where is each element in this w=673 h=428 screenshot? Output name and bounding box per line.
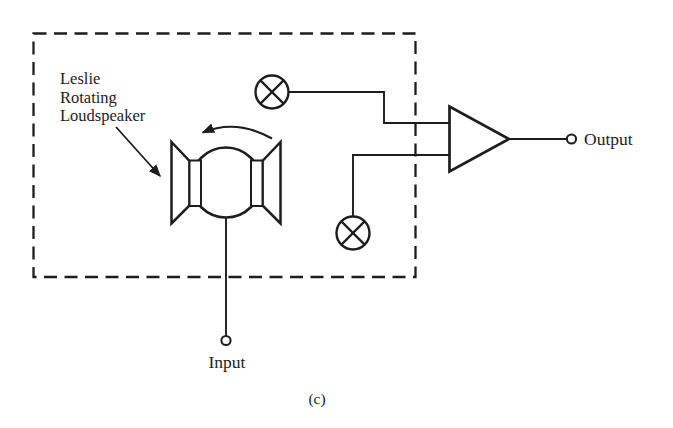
input-label: Input xyxy=(209,352,246,372)
left-horn-icon xyxy=(172,142,190,224)
output-label: Output xyxy=(584,129,633,149)
right-driver-rect xyxy=(251,161,263,207)
left-driver-rect xyxy=(190,161,202,207)
annotation-line: Leslie xyxy=(60,69,100,88)
bottom-mic-wire xyxy=(353,155,450,217)
microphone-bottom-icon xyxy=(337,217,370,250)
rotating-loudspeaker-symbol xyxy=(172,127,281,224)
top-mic-wire xyxy=(289,92,450,123)
annotation-arrow xyxy=(116,127,160,176)
rotation-arrow-icon xyxy=(203,127,272,139)
speaker-annotation: Leslie Rotating Loudspeaker xyxy=(60,69,160,176)
leslie-loudspeaker-diagram: Leslie Rotating Loudspeaker Input xyxy=(0,0,673,428)
figure-caption: (c) xyxy=(308,390,325,408)
amplifier-icon xyxy=(450,107,510,172)
input-terminal xyxy=(221,336,230,345)
microphone-top-icon xyxy=(256,76,289,109)
annotation-line: Loudspeaker xyxy=(60,106,146,125)
right-horn-icon xyxy=(263,142,281,224)
leslie-loudspeaker-figure: Leslie Rotating Loudspeaker Input xyxy=(0,0,673,428)
output-terminal xyxy=(567,134,576,143)
annotation-line: Rotating xyxy=(60,88,117,107)
